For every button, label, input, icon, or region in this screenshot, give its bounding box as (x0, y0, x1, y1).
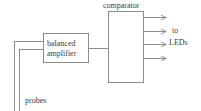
to-leds-label-line2: LEDs (169, 38, 188, 47)
balanced-amplifier-block (44, 34, 89, 63)
comparator-label: comparator (103, 1, 139, 10)
balanced-amplifier-label-line1: balanced (47, 39, 75, 48)
block-diagram-canvas: comparator balanced amplifier to LEDs pr… (0, 0, 201, 111)
comparator-block (109, 12, 144, 83)
to-leds-label-line1: to (172, 26, 178, 35)
balanced-amplifier-label-line2: amplifier (47, 49, 76, 58)
probes-label: probes (25, 96, 46, 105)
diagram-vector-layer (0, 0, 201, 111)
